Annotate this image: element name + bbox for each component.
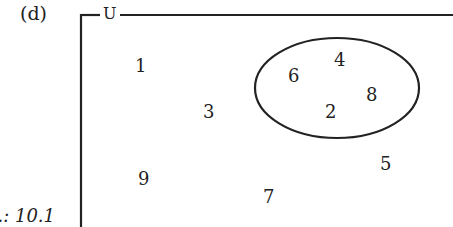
element-3: 3 [203, 103, 214, 121]
element-5: 5 [380, 155, 391, 173]
element-1: 1 [135, 57, 146, 75]
figure-caption: ...: 10.1 [0, 207, 55, 225]
element-2: 2 [325, 103, 336, 121]
element-6: 6 [288, 67, 299, 85]
element-8: 8 [366, 86, 377, 104]
universal-set-label: U [103, 6, 116, 22]
element-9: 9 [138, 170, 149, 188]
venn-frame [0, 0, 453, 227]
element-4: 4 [334, 51, 345, 69]
element-7: 7 [263, 188, 274, 206]
part-label: (d) [20, 4, 47, 23]
